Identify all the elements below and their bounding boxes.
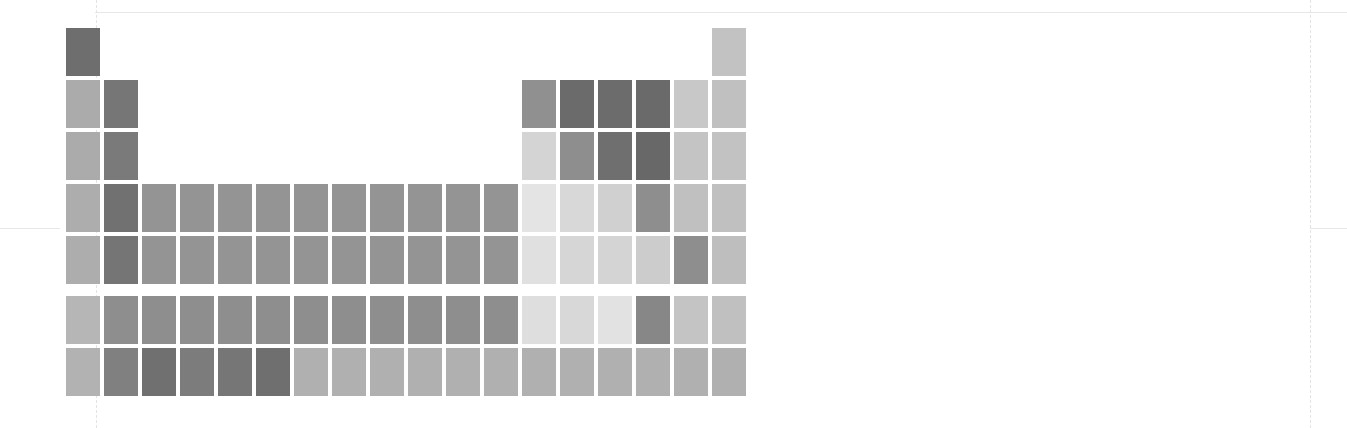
heatmap-cell	[560, 348, 594, 396]
heatmap-cell	[484, 184, 518, 232]
heatmap-cell	[560, 132, 594, 180]
heatmap-cell	[218, 184, 252, 232]
heatmap-cell	[598, 80, 632, 128]
heatmap-cell	[142, 296, 176, 344]
heatmap-cell	[674, 236, 708, 284]
heatmap-cell	[66, 236, 100, 284]
heatmap-cell	[484, 236, 518, 284]
heatmap-cell	[180, 348, 214, 396]
heatmap-cell	[408, 184, 442, 232]
heatmap-cell	[522, 184, 556, 232]
heatmap-cell	[370, 348, 404, 396]
heatmap-cell	[712, 28, 746, 76]
heatmap-cell	[522, 296, 556, 344]
heatmap-cell	[370, 184, 404, 232]
heatmap-cell	[560, 80, 594, 128]
heatmap-grid	[0, 0, 1347, 428]
heatmap-cell	[598, 348, 632, 396]
heatmap-cell	[636, 80, 670, 128]
heatmap-cell	[636, 132, 670, 180]
heatmap-cell	[636, 296, 670, 344]
heatmap-cell	[294, 236, 328, 284]
heatmap-cell	[598, 184, 632, 232]
heatmap-cell	[332, 296, 366, 344]
heatmap-cell	[142, 236, 176, 284]
heatmap-cell	[522, 348, 556, 396]
heatmap-cell	[522, 80, 556, 128]
heatmap-cell	[598, 296, 632, 344]
heatmap-cell	[294, 184, 328, 232]
heatmap-cell	[598, 132, 632, 180]
heatmap-cell	[408, 348, 442, 396]
heatmap-cell	[256, 236, 290, 284]
heatmap-cell	[712, 184, 746, 232]
heatmap-cell	[332, 184, 366, 232]
periodic-table-heatmap	[0, 0, 1347, 428]
heatmap-cell	[522, 236, 556, 284]
heatmap-cell	[598, 236, 632, 284]
heatmap-cell	[294, 348, 328, 396]
heatmap-cell	[104, 296, 138, 344]
heatmap-cell	[66, 80, 100, 128]
heatmap-cell	[484, 296, 518, 344]
heatmap-cell	[674, 296, 708, 344]
heatmap-cell	[636, 184, 670, 232]
heatmap-cell	[180, 296, 214, 344]
heatmap-cell	[370, 296, 404, 344]
heatmap-cell	[180, 184, 214, 232]
heatmap-cell	[560, 184, 594, 232]
heatmap-cell	[560, 236, 594, 284]
heatmap-cell	[104, 348, 138, 396]
heatmap-cell	[674, 348, 708, 396]
heatmap-cell	[256, 296, 290, 344]
heatmap-cell	[104, 236, 138, 284]
heatmap-cell	[66, 296, 100, 344]
heatmap-cell	[218, 348, 252, 396]
heatmap-cell	[560, 296, 594, 344]
heatmap-cell	[712, 236, 746, 284]
heatmap-cell	[66, 28, 100, 76]
heatmap-cell	[142, 348, 176, 396]
heatmap-cell	[674, 80, 708, 128]
heatmap-cell	[446, 348, 480, 396]
heatmap-cell	[408, 236, 442, 284]
heatmap-cell	[332, 236, 366, 284]
heatmap-cell	[674, 184, 708, 232]
heatmap-cell	[370, 236, 404, 284]
heatmap-cell	[256, 348, 290, 396]
heatmap-cell	[218, 296, 252, 344]
heatmap-cell	[712, 296, 746, 344]
heatmap-cell	[66, 184, 100, 232]
heatmap-cell	[294, 296, 328, 344]
heatmap-cell	[446, 296, 480, 344]
heatmap-cell	[104, 80, 138, 128]
heatmap-cell	[484, 348, 518, 396]
heatmap-cell	[104, 184, 138, 232]
heatmap-cell	[712, 348, 746, 396]
heatmap-cell	[180, 236, 214, 284]
heatmap-cell	[636, 348, 670, 396]
heatmap-cell	[522, 132, 556, 180]
heatmap-cell	[66, 132, 100, 180]
heatmap-cell	[218, 236, 252, 284]
heatmap-cell	[446, 184, 480, 232]
heatmap-cell	[674, 132, 708, 180]
heatmap-cell	[636, 236, 670, 284]
heatmap-cell	[712, 132, 746, 180]
heatmap-cell	[408, 296, 442, 344]
heatmap-cell	[256, 184, 290, 232]
heatmap-cell	[712, 80, 746, 128]
heatmap-cell	[104, 132, 138, 180]
heatmap-cell	[142, 184, 176, 232]
heatmap-cell	[446, 236, 480, 284]
heatmap-cell	[66, 348, 100, 396]
heatmap-cell	[332, 348, 366, 396]
